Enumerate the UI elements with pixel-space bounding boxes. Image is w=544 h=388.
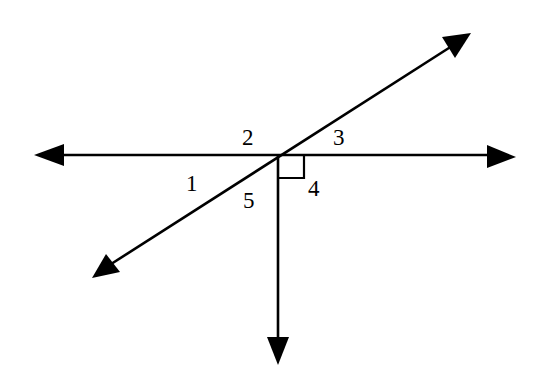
angle-label-1: 1: [186, 171, 198, 196]
right-angle-mark: [279, 156, 304, 178]
angle-label-2: 2: [242, 125, 254, 150]
arrowhead-left-icon: [34, 144, 64, 166]
angles-diagram: 1 2 3 4 5: [0, 0, 544, 388]
arrowhead-down-icon: [267, 337, 289, 365]
angle-label-4: 4: [308, 176, 320, 201]
arrowhead-right-icon: [487, 145, 516, 168]
arrowhead-upper-right-icon: [442, 33, 471, 58]
angle-label-3: 3: [333, 125, 345, 150]
arrowhead-lower-left-icon: [92, 254, 120, 278]
angle-label-5: 5: [243, 188, 255, 213]
